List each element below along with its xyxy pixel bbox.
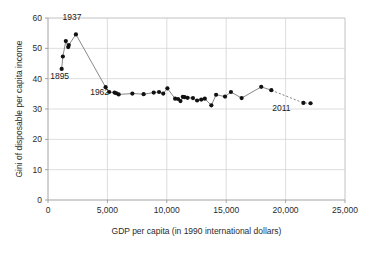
x-tick-label: 0 [46, 205, 51, 215]
data-point [161, 91, 165, 95]
data-point [142, 92, 146, 96]
data-point [195, 98, 199, 102]
data-point [185, 96, 189, 100]
data-point [74, 32, 78, 36]
annotation-1937: 1937 [62, 12, 81, 22]
data-point [117, 92, 121, 96]
data-point [229, 90, 233, 94]
y-tick-label: 20 [33, 134, 43, 144]
data-point [214, 93, 218, 97]
point-annotations: 1895193719622011 [50, 12, 291, 113]
x-tick-label: 5,000 [97, 205, 119, 215]
data-point [301, 101, 305, 105]
data-point [165, 86, 169, 90]
data-point [240, 96, 244, 100]
x-tick-label: 20,000 [273, 205, 299, 215]
annotation-2011: 2011 [272, 103, 291, 113]
y-tick-label: 50 [33, 43, 43, 53]
x-tick-label: 15,000 [213, 205, 239, 215]
data-point [191, 96, 195, 100]
data-point [61, 54, 65, 58]
data-point [223, 94, 227, 98]
y-tick-label: 60 [33, 13, 43, 23]
data-point [203, 97, 207, 101]
data-point [199, 97, 203, 101]
data-point [152, 91, 156, 95]
axis-ticks [45, 18, 345, 203]
data-point [308, 101, 312, 105]
data-point [269, 88, 273, 92]
data-point [209, 103, 213, 107]
data-point [67, 43, 71, 47]
gridlines [48, 18, 345, 200]
y-axis-label: Gini of disposable per capita income [14, 40, 24, 177]
x-tick-label: 25,000 [332, 205, 358, 215]
chart-figure: 010203040506005,00010,00015,00020,00025,… [0, 0, 370, 256]
x-tick-label: 10,000 [154, 205, 180, 215]
scatter-plot: 010203040506005,00010,00015,00020,00025,… [0, 0, 370, 256]
annotation-1962: 1962 [90, 87, 109, 97]
annotation-1895: 1895 [50, 71, 69, 81]
x-axis-label: GDP per capita (in 1990 international do… [112, 226, 282, 236]
y-tick-label: 10 [33, 165, 43, 175]
y-tick-label: 40 [33, 74, 43, 84]
data-point [130, 91, 134, 95]
data-point [178, 99, 182, 103]
y-tick-label: 0 [37, 195, 42, 205]
data-point [157, 90, 161, 94]
data-point [64, 39, 68, 43]
data-point [259, 85, 263, 89]
y-tick-label: 30 [33, 104, 43, 114]
